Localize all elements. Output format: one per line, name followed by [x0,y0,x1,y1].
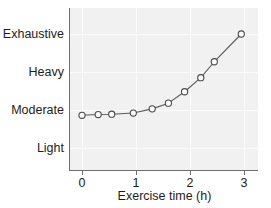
data-point-marker [182,89,188,95]
chart-figure: Exhaustive Heavy Moderate Light 0 1 2 3 … [0,0,271,208]
data-point-marker [95,111,101,117]
data-series-layer [0,0,271,208]
data-point-marker [79,112,85,118]
data-point-marker [211,59,217,65]
data-point-marker [198,75,204,81]
data-point-marker [238,31,244,37]
data-point-marker [130,110,136,116]
data-line [82,34,241,115]
data-point-marker [165,100,171,106]
data-point-marker [149,106,155,112]
data-point-marker [109,111,115,117]
